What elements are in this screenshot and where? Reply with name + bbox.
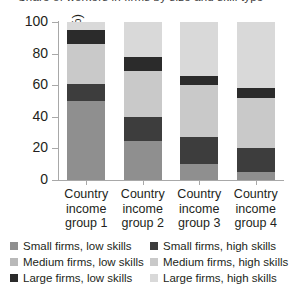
bar-stack[interactable]: [180, 22, 218, 180]
legend-item[interactable]: Medium firms, high skills: [150, 256, 300, 268]
y-axis-tick-label: 0: [40, 171, 48, 187]
legend-label: Medium firms, low skills: [23, 256, 144, 268]
bar-stack[interactable]: [124, 22, 162, 180]
legend-label: Small firms, low skills: [23, 240, 132, 252]
category-label-line: Country: [168, 187, 230, 202]
bar-segment[interactable]: [180, 164, 218, 180]
legend-label: Medium firms, high skills: [163, 256, 288, 268]
legend-label: Large firms, low skills: [23, 272, 132, 284]
category-label-line: income: [112, 202, 174, 217]
bar-segment[interactable]: [67, 30, 105, 44]
x-axis-tick-mark: [143, 180, 144, 185]
bar-stack[interactable]: [67, 22, 105, 180]
bar-segment[interactable]: [124, 22, 162, 57]
legend-label: Small firms, high skills: [163, 240, 276, 252]
legend-swatch-icon: [150, 242, 158, 250]
category-label-line: Country: [112, 187, 174, 202]
bar-segment[interactable]: [67, 84, 105, 101]
x-axis-category-label: Countryincomegroup 1: [55, 187, 117, 231]
bar-segment[interactable]: [180, 85, 218, 137]
bar-segment[interactable]: [180, 22, 218, 76]
y-axis-tick-label: 60: [32, 76, 48, 92]
bar-segment[interactable]: [124, 57, 162, 71]
bar-segment[interactable]: [237, 22, 275, 88]
x-axis-category-label: Countryincomegroup 4: [225, 187, 287, 231]
y-axis-tick-label: 40: [32, 108, 48, 124]
category-label-line: income: [225, 202, 287, 217]
bar-segment[interactable]: [67, 101, 105, 180]
bar-segment[interactable]: [180, 76, 218, 85]
legend-swatch-icon: [150, 258, 158, 266]
legend-item[interactable]: Large firms, low skills: [10, 272, 150, 284]
x-axis-tick-mark: [86, 180, 87, 185]
legend-item[interactable]: Medium firms, low skills: [10, 256, 150, 268]
y-axis-tick-label: 80: [32, 45, 48, 61]
category-label-line: income: [168, 202, 230, 217]
bar-segment[interactable]: [67, 44, 105, 84]
bar-segment[interactable]: [237, 98, 275, 149]
x-axis-category-label: Countryincomegroup 3: [168, 187, 230, 231]
x-axis-line: [58, 180, 284, 181]
bar-segment[interactable]: [237, 172, 275, 180]
legend-label: Large firms, high skills: [163, 272, 277, 284]
bar-segment[interactable]: [124, 117, 162, 141]
legend-swatch-icon: [10, 274, 18, 282]
x-axis-tick-mark: [256, 180, 257, 185]
category-label-line: Country: [225, 187, 287, 202]
legend-swatch-icon: [10, 242, 18, 250]
bar-segment[interactable]: [124, 71, 162, 117]
category-labels: Countryincomegroup 1Countryincomegroup 2…: [58, 187, 284, 235]
category-label-line: Country: [55, 187, 117, 202]
chart-title-text: Share of workers in firms by size and sk…: [18, 0, 263, 3]
legend-swatch-icon: [10, 258, 18, 266]
bar-stack[interactable]: [237, 22, 275, 180]
chart-legend: Small firms, low skillsSmall firms, high…: [10, 238, 294, 286]
bars-layer: [58, 22, 284, 180]
bar-segment[interactable]: [124, 141, 162, 181]
legend-item[interactable]: Small firms, low skills: [10, 240, 150, 252]
y-axis-tick-mark: [52, 180, 58, 181]
legend-item[interactable]: Small firms, high skills: [150, 240, 300, 252]
y-axis-tick-label: 100: [25, 13, 48, 29]
bar-segment[interactable]: [237, 148, 275, 172]
category-label-line: group 1: [55, 216, 117, 231]
category-label-line: group 2: [112, 216, 174, 231]
bar-segment[interactable]: [67, 22, 105, 30]
legend-swatch-icon: [150, 274, 158, 282]
bar-segment[interactable]: [180, 137, 218, 164]
legend-item[interactable]: Large firms, high skills: [150, 272, 300, 284]
chart-title-cropped: Share of workers in firms by size and sk…: [0, 0, 300, 11]
category-label-line: income: [55, 202, 117, 217]
category-label-line: group 3: [168, 216, 230, 231]
y-axis-tick-label: 20: [32, 139, 48, 155]
x-axis-category-label: Countryincomegroup 2: [112, 187, 174, 231]
x-axis-tick-mark: [199, 180, 200, 185]
category-label-line: group 4: [225, 216, 287, 231]
bar-segment[interactable]: [237, 88, 275, 97]
chart-root: Share of workers in firms by size and sk…: [0, 0, 300, 286]
